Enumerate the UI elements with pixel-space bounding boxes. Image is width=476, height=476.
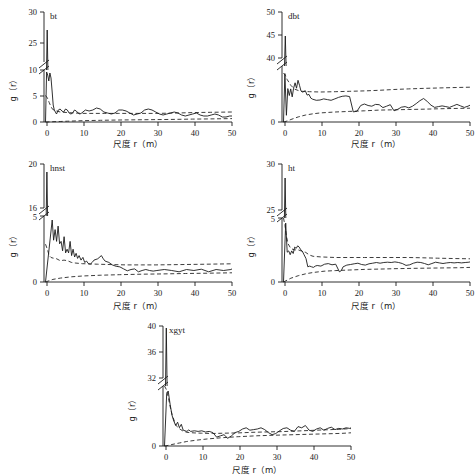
panel-dbt: 50 45 40 0 0 10 20 30 40 50 dbt g（r） 尺度 …	[238, 0, 476, 148]
ylabel-dbt: g（r）	[246, 72, 256, 99]
xtick-dbt-0: 0	[283, 128, 287, 138]
panel-ht: 30 25 5 0 0 10 20 30 40 50 ht g（r） 尺度 r（…	[238, 152, 476, 312]
plot-ht: 30 25 5 0 0 10 20 30 40 50 ht g（r） 尺度 r（…	[238, 152, 476, 312]
xtick-bt-50: 50	[228, 128, 237, 138]
panel-tag-dbt: dbt	[288, 11, 300, 21]
xlabel-bt: 尺度 r（m）	[113, 139, 163, 148]
series-lower-envelope-ht	[284, 267, 471, 282]
ytick-bt-25: 25	[29, 38, 38, 48]
xtick-xgyt-30: 30	[273, 452, 282, 462]
ytick-dbt-50: 50	[267, 7, 276, 17]
plot-dbt: 50 45 40 0 0 10 20 30 40 50 dbt g（r） 尺度 …	[238, 0, 476, 148]
ytick-hnst-20: 20	[29, 159, 38, 169]
series-observed-hnst	[46, 220, 233, 282]
xtick-dbt-10: 10	[318, 128, 327, 138]
xtick-ht-0: 0	[283, 288, 287, 298]
series-upper-envelope-dbt	[284, 73, 471, 92]
ytick-ht-30: 30	[267, 159, 276, 169]
panel-tag-ht: ht	[288, 163, 296, 173]
xtick-hnst-20: 20	[117, 288, 126, 298]
xtick-ht-30: 30	[392, 288, 401, 298]
ytick-ht-0: 0	[271, 277, 275, 287]
series-upper-envelope-xgyt	[165, 386, 352, 434]
ylabel-hnst: g（r）	[8, 231, 18, 258]
ytick-xgyt-36: 36	[148, 347, 157, 357]
xtick-dbt-50: 50	[466, 128, 475, 138]
ylabel-xgyt: g（r）	[127, 395, 137, 422]
xtick-ht-10: 10	[318, 288, 327, 298]
panel-tag-hnst: hnst	[50, 163, 66, 173]
xtick-xgyt-20: 20	[236, 452, 245, 462]
xtick-xgyt-50: 50	[347, 452, 356, 462]
plot-bt: 30 25 10 5 0 0 10 20 30 40 50 bt g（r） 尺度…	[0, 0, 238, 148]
xtick-ht-20: 20	[355, 288, 364, 298]
series-observed-dbt	[284, 74, 471, 122]
xlabel-hnst: 尺度 r（m）	[113, 301, 163, 311]
xtick-hnst-40: 40	[191, 288, 200, 298]
series-lower-envelope-dbt	[284, 108, 471, 122]
series-lower-envelope-xgyt	[165, 433, 352, 446]
plot-xgyt: 40 36 32 0 0 10 20 30 40 50 xgyt g（r） 尺度…	[119, 316, 357, 476]
ytick-bt-0: 0	[33, 117, 37, 127]
panel-tag-bt: bt	[50, 11, 58, 21]
xtick-bt-40: 40	[191, 128, 200, 138]
ytick-hnst-0: 0	[33, 277, 37, 287]
xtick-bt-30: 30	[154, 128, 163, 138]
ytick-bt-5: 5	[33, 91, 37, 101]
xtick-xgyt-40: 40	[310, 452, 319, 462]
series-spike-dbt	[285, 36, 287, 66]
series-lower-envelope-bt	[46, 119, 233, 122]
panel-bt: 30 25 10 5 0 0 10 20 30 40 50 bt g（r） 尺度…	[0, 0, 238, 148]
ytick-xgyt-0: 0	[152, 441, 156, 451]
xtick-dbt-40: 40	[429, 128, 438, 138]
panel-tag-xgyt: xgyt	[169, 325, 186, 335]
ytick-xgyt-40: 40	[148, 321, 157, 331]
panel-hnst: 20 16 5 0 0 10 20 30 40 50 hnst g（r） 尺度 …	[0, 152, 238, 312]
xtick-xgyt-10: 10	[199, 452, 208, 462]
series-spike-ht	[284, 178, 285, 218]
xtick-dbt-20: 20	[355, 128, 364, 138]
xtick-bt-20: 20	[117, 128, 126, 138]
ytick-xgyt-32: 32	[148, 373, 157, 383]
panel-xgyt: 40 36 32 0 0 10 20 30 40 50 xgyt g（r） 尺度…	[119, 316, 357, 476]
ytick-bt-10: 10	[29, 65, 38, 75]
xtick-hnst-30: 30	[154, 288, 163, 298]
xlabel-dbt: 尺度 r（m）	[351, 139, 401, 148]
plot-hnst: 20 16 5 0 0 10 20 30 40 50 hnst g（r） 尺度 …	[0, 152, 238, 312]
series-lower-envelope-hnst	[46, 273, 233, 282]
figure-root: { "figure": { "xlabel": "尺度 r（m）", "ylab…	[0, 0, 476, 476]
ytick-hnst-5: 5	[33, 212, 37, 222]
series-observed-bt	[46, 72, 233, 122]
ylabel-ht: g（r）	[246, 231, 256, 258]
ytick-dbt-0: 0	[271, 117, 275, 127]
xtick-dbt-30: 30	[392, 128, 401, 138]
ytick-dbt-45: 45	[267, 30, 276, 40]
ylabel-bt: g（r）	[8, 75, 18, 102]
xlabel-ht: 尺度 r（m）	[351, 301, 401, 311]
xtick-hnst-10: 10	[80, 288, 89, 298]
series-observed-xgyt	[165, 391, 352, 446]
series-upper-envelope-bt	[46, 96, 233, 114]
xtick-ht-40: 40	[429, 288, 438, 298]
series-upper-envelope-hnst	[46, 244, 233, 265]
xtick-xgyt-0: 0	[164, 452, 168, 462]
ytick-dbt-40: 40	[267, 53, 276, 63]
ytick-ht-5: 5	[271, 214, 275, 224]
series-spike-bt	[47, 30, 48, 70]
series-spike-hnst	[46, 172, 47, 216]
xtick-hnst-50: 50	[228, 288, 237, 298]
xtick-bt-10: 10	[80, 128, 89, 138]
xlabel-xgyt: 尺度 r（m）	[232, 465, 282, 475]
series-upper-envelope-ht	[284, 218, 471, 259]
xtick-ht-50: 50	[466, 288, 475, 298]
xtick-bt-0: 0	[45, 128, 49, 138]
ytick-bt-30: 30	[29, 7, 38, 17]
xtick-hnst-0: 0	[45, 288, 49, 298]
